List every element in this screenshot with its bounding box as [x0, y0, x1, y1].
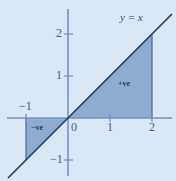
x-tick-label-2: 2 — [149, 121, 155, 133]
y-tick-label-1: 1 — [56, 69, 62, 81]
function-label: y = x — [120, 12, 143, 23]
plot-area — [0, 0, 176, 181]
x-tick-label-0: 0 — [71, 121, 77, 133]
x-tick-label-1: 1 — [107, 121, 113, 133]
y-tick-label-neg1: −1 — [50, 153, 63, 165]
graph-figure: y = x +ve −ve −1 0 1 2 1 2 −1 — [0, 0, 176, 181]
y-tick-label-2: 2 — [56, 27, 62, 39]
x-tick-label-neg1: −1 — [19, 100, 32, 112]
negative-region-label: −ve — [31, 124, 43, 132]
positive-region-label: +ve — [118, 80, 130, 88]
